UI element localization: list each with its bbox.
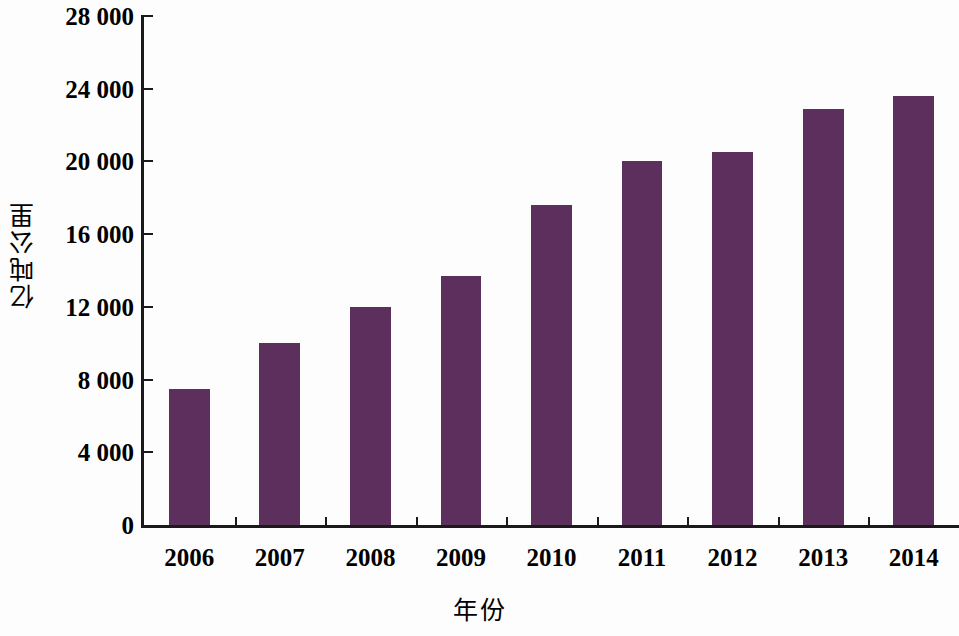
x-tick-mark: [597, 517, 599, 528]
y-tick-label: 12 000: [30, 294, 134, 319]
y-tick-label: 16 000: [30, 222, 134, 247]
x-tick-label: 2012: [708, 545, 758, 570]
y-tick-label: 4 000: [30, 440, 134, 465]
x-tick-label: 2014: [889, 545, 939, 570]
x-axis-tick-labels: 200620072008200920102011201220132014: [141, 545, 959, 579]
bar: [531, 205, 572, 525]
x-tick-mark: [416, 517, 418, 528]
y-tick-mark: [141, 451, 153, 453]
y-tick-mark: [141, 233, 153, 235]
x-tick-mark: [868, 517, 870, 528]
y-axis-tick-labels: 04 0008 00012 00016 00020 00024 00028 00…: [30, 0, 134, 560]
x-axis-title: 年份: [0, 590, 959, 626]
x-tick-label: 2008: [345, 545, 395, 570]
y-tick-mark: [141, 160, 153, 162]
bar: [712, 152, 753, 525]
bar: [893, 96, 934, 525]
x-tick-label: 2009: [436, 545, 486, 570]
x-tick-mark: [778, 517, 780, 528]
x-axis-title-text: 年份: [453, 596, 507, 625]
bar: [169, 389, 210, 525]
y-tick-mark: [141, 15, 153, 17]
y-tick-label: 28 000: [30, 4, 134, 29]
plot-area: [141, 16, 959, 528]
x-tick-mark: [687, 517, 689, 528]
bar: [622, 161, 663, 525]
x-tick-label: 2013: [798, 545, 848, 570]
x-tick-label: 2011: [618, 545, 667, 570]
y-tick-label: 24 000: [30, 76, 134, 101]
x-tick-mark: [506, 517, 508, 528]
bar: [350, 307, 391, 525]
bar: [441, 276, 482, 525]
x-tick-mark: [235, 517, 237, 528]
x-tick-mark: [325, 517, 327, 528]
x-tick-label: 2010: [527, 545, 577, 570]
y-tick-mark: [141, 88, 153, 90]
y-tick-label: 20 000: [30, 149, 134, 174]
x-axis-line: [141, 525, 959, 528]
bar-chart: 亿吨公里 04 0008 00012 00016 00020 00024 000…: [0, 0, 959, 636]
bar: [259, 343, 300, 525]
x-tick-label: 2006: [164, 545, 214, 570]
y-tick-mark: [141, 379, 153, 381]
x-tick-label: 2007: [255, 545, 305, 570]
y-tick-label: 8 000: [30, 367, 134, 392]
y-tick-mark: [141, 306, 153, 308]
y-tick-label: 0: [30, 513, 134, 538]
bar: [803, 109, 844, 525]
